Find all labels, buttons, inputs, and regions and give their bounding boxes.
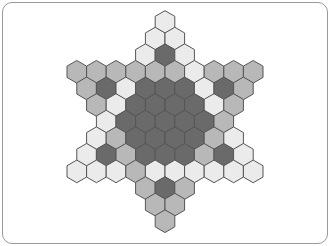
hex-cell[interactable] (87, 160, 107, 183)
hex-cell[interactable] (204, 160, 224, 183)
hex-cell[interactable] (243, 160, 263, 183)
hex-cell[interactable] (106, 160, 126, 183)
hex-cell[interactable] (155, 210, 175, 233)
hex-cell[interactable] (224, 160, 244, 183)
game-board[interactable] (0, 0, 330, 246)
hex-cell[interactable] (67, 160, 87, 183)
